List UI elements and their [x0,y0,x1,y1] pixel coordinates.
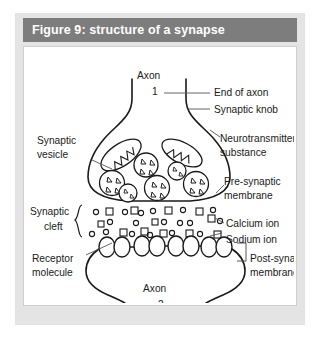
label-synaptic-vesicle-line2: vesicle [37,149,68,160]
figure-header-bar: Figure 9: structure of a synapse [23,18,297,42]
figure-card: Figure 9: structure of a synapse [15,13,305,325]
label-presynaptic-membrane-line2: membrane [224,190,273,201]
label-neurotransmitter: Neurotransmitter [220,133,294,144]
synaptic-vesicle [134,153,158,177]
postsynaptic-neuron-outline [86,249,134,303]
label-axon-2-number: 2 [158,299,164,303]
label-receptor-molecule: Receptor [32,253,74,264]
label-postsynaptic-membrane-line2: membrane [250,267,294,278]
label-presynaptic-membrane: Pre-synaptic [224,176,281,187]
label-synaptic-cleft: Synaptic [30,206,69,217]
label-end-of-axon: End of axon [214,87,268,98]
figure-title: Figure 9: structure of a synapse [23,23,225,37]
label-sodium-ion: Sodium ion [226,234,277,245]
label-calcium-ion: Calcium ion [226,218,279,229]
label-synaptic-cleft-line2: cleft [44,221,63,232]
label-postsynaptic-membrane: Post-synaptic [250,253,294,264]
label-synaptic-vesicle: Synaptic [37,135,76,146]
label-neurotransmitter-line2: substance [220,147,267,158]
synaptic-vesicle [184,172,209,197]
label-axon-1-number: 1 [152,86,158,97]
label-synaptic-knob: Synaptic knob [214,104,278,115]
label-axon-2: Axon [143,283,166,294]
label-receptor-molecule-line2: molecule [32,267,73,278]
synapse-diagram: Axon 1 End of axon Synaptic knob Synapti… [24,47,294,303]
receptor-molecule-row [99,236,232,257]
synaptic-cleft-brace [75,205,82,237]
synaptic-vesicle [168,162,186,180]
synaptic-vesicle [119,184,137,202]
label-axon-1: Axon [137,70,160,81]
synaptic-vesicle [145,176,170,201]
cleft-ions [89,207,222,238]
diagram-panel: Axon 1 End of axon Synaptic knob Synapti… [23,46,297,306]
